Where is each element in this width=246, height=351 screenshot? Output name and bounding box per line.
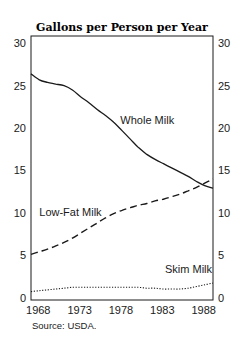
whole-milk-label: Whole Milk xyxy=(120,114,174,126)
x-axis: 19681973197819831988 xyxy=(26,304,216,316)
chart-title: Gallons per Person per Year xyxy=(36,21,208,34)
y-tick-label-right: 15 xyxy=(218,164,230,176)
y-tick-label-left: 0 xyxy=(20,292,26,304)
y-tick-label-left: 15 xyxy=(14,164,26,176)
y-tick-label-left: 10 xyxy=(14,207,26,219)
x-tick-label: 1973 xyxy=(67,304,91,316)
y-tick-label-left: 30 xyxy=(14,37,26,49)
y-tick-label-right: 5 xyxy=(218,249,224,261)
plot-frame xyxy=(31,36,213,300)
y-tick-label-right: 10 xyxy=(218,207,230,219)
y-axis-right: 051015202530 xyxy=(218,37,230,303)
x-tick-label: 1978 xyxy=(109,304,133,316)
y-axis-left: 051015202530 xyxy=(14,37,26,303)
line-chart: Gallons per Person per Year 051015202530… xyxy=(0,0,246,351)
y-tick-label-right: 25 xyxy=(218,80,230,92)
x-tick-label: 1968 xyxy=(26,304,50,316)
low-fat-milk-label: Low-Fat Milk xyxy=(39,206,102,218)
y-tick-label-left: 20 xyxy=(14,122,26,134)
skim-milk-label: Skim Milk xyxy=(165,263,213,275)
x-tick-label: 1988 xyxy=(191,304,215,316)
y-tick-label-right: 0 xyxy=(218,292,224,304)
y-tick-label-left: 5 xyxy=(20,249,26,261)
whole-milk-line xyxy=(31,74,213,188)
y-tick-label-left: 25 xyxy=(14,80,26,92)
series-annotations: Whole MilkLow-Fat MilkSkim Milk xyxy=(39,114,212,275)
source-note: Source: USDA. xyxy=(32,320,96,331)
x-tick-label: 1983 xyxy=(150,304,174,316)
y-tick-label-right: 30 xyxy=(218,37,230,49)
y-tick-label-right: 20 xyxy=(218,122,230,134)
skim-milk-line xyxy=(31,283,213,292)
series-lines xyxy=(31,74,213,292)
